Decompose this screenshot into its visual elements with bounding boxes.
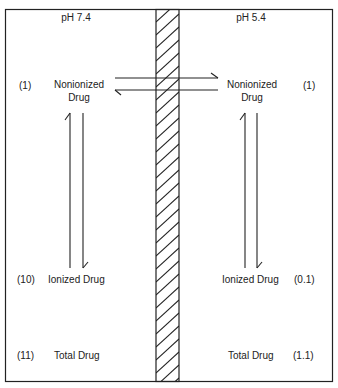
right-nonionized-label: Nonionized Drug [227, 79, 277, 104]
arrow-right-up [240, 113, 245, 268]
left-ionized-label: Ionized Drug [48, 274, 105, 286]
diagram-canvas [0, 0, 338, 388]
right-ionized-label: Ionized Drug [222, 274, 279, 286]
arrow-right-down [257, 113, 262, 268]
arrow-left-down [83, 113, 88, 268]
left-nonionized-value: (1) [19, 80, 31, 92]
right-ionized-value: (0.1) [294, 274, 315, 286]
left-ph-label: pH 7.4 [61, 12, 90, 24]
right-ph-label: pH 5.4 [236, 12, 265, 24]
left-ionized-value: (10) [17, 274, 35, 286]
left-total-label: Total Drug [54, 350, 100, 362]
right-nonionized-value: (1) [303, 80, 315, 92]
membrane [156, 10, 179, 382]
left-total-value: (11) [17, 350, 34, 362]
right-total-label: Total Drug [228, 350, 274, 362]
arrow-left-up [65, 113, 70, 268]
left-nonionized-label: Nonionized Drug [54, 79, 104, 104]
right-total-value: (1.1) [293, 350, 314, 362]
